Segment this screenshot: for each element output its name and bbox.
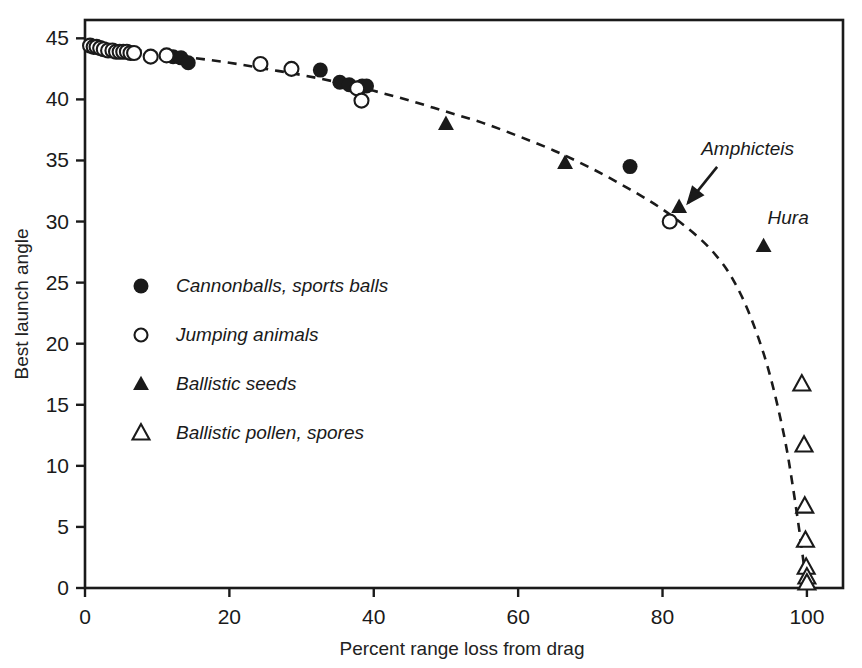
data-point [181, 55, 196, 70]
legend-item: Cannonballs, sports balls [134, 275, 389, 296]
y-tick-label: 10 [46, 454, 69, 477]
legend-marker-open-circle [135, 329, 148, 342]
annotation-label: Hura [768, 207, 809, 228]
data-point [756, 238, 772, 252]
annotations: AmphicteisHura [688, 138, 809, 228]
data-point [793, 375, 810, 390]
x-tick-label: 0 [79, 605, 91, 628]
data-point [796, 436, 813, 451]
x-tick-label: 40 [362, 605, 385, 628]
legend-marker-filled-triangle [133, 376, 149, 390]
chart-figure: 051015202530354045 020406080100 Amphicte… [0, 0, 862, 668]
data-point [663, 215, 677, 229]
y-axis-tick-labels: 051015202530354045 [46, 26, 69, 599]
y-axis-title: Best launch angle [11, 228, 32, 379]
data-point [557, 155, 573, 169]
data-point [796, 497, 813, 512]
data-point [313, 63, 328, 78]
annotation-label: Amphicteis [700, 138, 794, 159]
data-point [127, 46, 141, 60]
series-open-circle [83, 39, 677, 229]
chart-legend: Cannonballs, sports ballsJumping animals… [133, 275, 389, 443]
data-point [160, 48, 174, 62]
legend-item: Ballistic pollen, spores [133, 422, 365, 443]
x-tick-label: 20 [218, 605, 241, 628]
y-tick-label: 15 [46, 393, 69, 416]
y-tick-label: 5 [57, 515, 69, 538]
y-tick-label: 30 [46, 210, 69, 233]
y-axis-ticks [76, 38, 85, 588]
y-tick-label: 35 [46, 148, 69, 171]
x-tick-label: 80 [651, 605, 674, 628]
data-point [438, 115, 454, 129]
x-tick-label: 100 [789, 605, 824, 628]
x-axis-tick-labels: 020406080100 [79, 605, 824, 628]
legend-label: Ballistic pollen, spores [176, 422, 364, 443]
y-tick-label: 40 [46, 87, 69, 110]
legend-marker-filled-circle [134, 279, 149, 294]
data-point [284, 62, 298, 76]
data-point [144, 50, 158, 64]
data-point [253, 57, 267, 71]
y-tick-label: 20 [46, 332, 69, 355]
series-open-triangle [793, 375, 815, 589]
legend-label: Cannonballs, sports balls [176, 275, 389, 296]
data-point [671, 199, 687, 213]
data-point [623, 159, 638, 174]
data-series [83, 39, 815, 590]
y-tick-label: 25 [46, 271, 69, 294]
y-tick-label: 45 [46, 26, 69, 49]
x-axis-ticks [85, 588, 807, 597]
legend-item: Ballistic seeds [133, 373, 297, 394]
x-axis-title: Percent range loss from drag [339, 638, 584, 659]
data-point [354, 94, 368, 108]
x-tick-label: 60 [506, 605, 529, 628]
legend-item: Jumping animals [135, 324, 320, 345]
y-tick-label: 0 [57, 576, 69, 599]
series-filled-triangle [438, 115, 772, 252]
legend-label: Ballistic seeds [176, 373, 297, 394]
plot-frame [85, 20, 843, 588]
legend-label: Jumping animals [175, 324, 319, 345]
legend-marker-open-triangle [133, 424, 150, 439]
scatter-plot: 051015202530354045 020406080100 Amphicte… [0, 0, 862, 668]
